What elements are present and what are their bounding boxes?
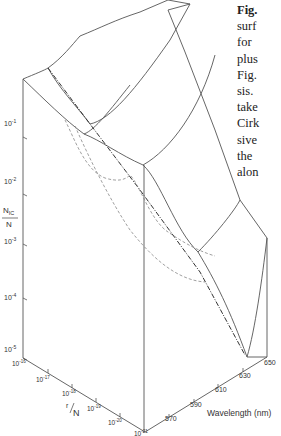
x-tick-label: 10-21 — [134, 429, 148, 436]
svg-text:N: N — [6, 220, 12, 229]
caption-label: Fig. — [237, 3, 257, 17]
caption-line: alon — [237, 164, 281, 180]
svg-text:NIC: NIC — [3, 206, 14, 216]
caption-line: Fig. — [237, 67, 281, 83]
mesh-line — [84, 85, 130, 134]
trajectory-line — [48, 68, 245, 355]
svg-text:N: N — [73, 408, 80, 418]
mesh-line — [48, 4, 190, 124]
x-tick-label: 10-19 — [87, 404, 101, 412]
z-tick-label: 10-2 — [4, 176, 16, 185]
caption-line: Cirk — [237, 115, 281, 131]
svg-text:r: r — [66, 402, 69, 409]
x-tick-label: 10-17 — [36, 375, 50, 383]
caption-line: sis. — [237, 83, 281, 99]
x-tick-label: 10-18 — [62, 389, 76, 397]
x-axis-label: r N — [66, 402, 80, 418]
surface-top-edge — [23, 0, 190, 79]
y-tick-label: 650 — [264, 359, 276, 366]
z-axis-label: NIC N — [2, 206, 18, 229]
mesh-line — [143, 55, 215, 165]
caption-line: the — [237, 148, 281, 164]
projected-curve — [65, 120, 215, 256]
y-tick-label: 590 — [190, 401, 202, 408]
y-tick-label: 630 — [239, 372, 251, 379]
y-axis-label: Wavelength (nm) — [207, 408, 272, 418]
caption-line: plus — [237, 51, 281, 67]
y-axis-wavelength — [145, 357, 267, 432]
mesh-line — [247, 238, 267, 357]
figure-caption: Fig. surf for plus Fig. sis. take Cirk s… — [237, 2, 281, 180]
projected-curve — [75, 126, 205, 282]
caption-line: surf — [237, 18, 281, 34]
x-axis-r-over-n — [23, 358, 145, 432]
caption-line: take — [237, 99, 281, 115]
caption-line: sive — [237, 132, 281, 148]
x-tick-label: 10-20 — [108, 418, 122, 426]
x-tick-label: 10-16 — [12, 359, 26, 367]
z-tick-label: 10-3 — [4, 236, 16, 245]
mesh-line — [23, 79, 267, 357]
z-tick-label: 10-4 — [4, 292, 16, 301]
caption-line: for — [237, 34, 281, 50]
z-tick-label: 10-5 — [4, 344, 16, 353]
y-tick-label: 610 — [215, 386, 227, 393]
mesh-line — [198, 200, 240, 252]
y-tick-label: 570 — [165, 415, 177, 422]
z-tick-label: 10-1 — [4, 118, 16, 127]
